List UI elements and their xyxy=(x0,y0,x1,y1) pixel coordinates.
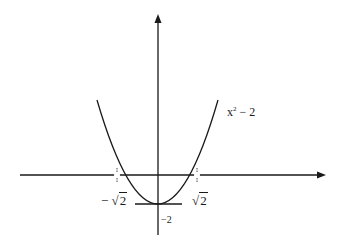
y-axis-arrowhead-icon xyxy=(155,14,162,23)
function-label: x2 − 2 xyxy=(227,106,255,118)
root-label-right: √2 xyxy=(192,194,208,207)
x-axis-arrowhead-icon xyxy=(317,172,326,179)
root-left-value: 2 xyxy=(119,192,128,208)
function-label-rest: − 2 xyxy=(237,105,256,119)
root-marker-right xyxy=(194,172,200,178)
root-left-sign: − xyxy=(101,193,108,208)
root-right-value: 2 xyxy=(199,192,208,208)
vertex-label: −2 xyxy=(161,215,172,225)
root-label-left: − √2 xyxy=(101,194,127,207)
sqrt-left: √2 xyxy=(112,194,128,207)
root-marker-left xyxy=(114,172,120,178)
radical-icon: √ xyxy=(112,193,119,208)
graph-canvas xyxy=(0,0,341,247)
sqrt-right: √2 xyxy=(192,194,208,207)
